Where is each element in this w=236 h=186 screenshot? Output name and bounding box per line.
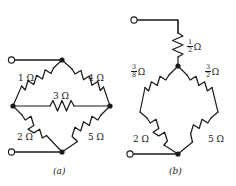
resistor-b-three-eighths [145, 75, 169, 91]
node-a-top [59, 57, 64, 62]
terminal-a-top [8, 57, 14, 63]
wire-a-r2-lower [47, 136, 63, 153]
wire-a-r4-lower [104, 87, 111, 106]
ohm-symbol: Ω [138, 67, 145, 77]
terminal-a-bottom [8, 149, 14, 155]
wire-a-r5-lower [62, 142, 78, 153]
label-a-5ohm: 5 Ω [88, 133, 104, 142]
label-a-1ohm: 1 Ω [18, 74, 34, 83]
terminal-b-top [131, 17, 137, 23]
wire-b-r5-lower [178, 142, 193, 154]
figure-container: 1 Ω 4 Ω 3 Ω 2 Ω 5 Ω (a) 1 2 Ω 3 8 Ω 3 2 … [0, 0, 236, 186]
fraction-denominator: 2 [187, 46, 193, 54]
label-b-5ohm: 5 Ω [208, 135, 224, 144]
fraction-numerator: 1 [187, 39, 193, 46]
label-a-3ohm: 3 Ω [53, 92, 69, 101]
fraction-three-eighths: 3 8 [131, 64, 137, 79]
label-a-4ohm: 4 Ω [88, 74, 104, 83]
resistor-b-2ohm [147, 118, 167, 145]
wire-b-r5-upper [211, 112, 218, 118]
resistor-a-3ohm [50, 101, 74, 112]
wire-b-r32-lower [212, 88, 218, 113]
caption-a: (a) [53, 166, 65, 176]
node-a-left [10, 103, 15, 108]
fraction-three-halves: 3 2 [205, 64, 211, 79]
node-a-right [107, 103, 112, 108]
fraction-denominator: 2 [205, 71, 211, 79]
wire-b-top-lead [138, 20, 179, 33]
node-b-center [175, 63, 180, 68]
wire-b-r2-upper [140, 112, 147, 118]
wire-a-r1-lower [13, 86, 22, 106]
label-b-2ohm: 2 Ω [133, 135, 149, 144]
ohm-symbol: Ω [194, 42, 201, 52]
circuit-diagram-svg [0, 0, 236, 186]
caption-b: (b) [169, 166, 182, 176]
fraction-numerator: 3 [205, 64, 211, 71]
ohm-symbol: Ω [212, 67, 219, 77]
terminal-b-bottom [127, 151, 133, 157]
node-b-bottom [175, 151, 180, 156]
wire-b-r38-lower [140, 88, 145, 113]
label-b-three-halves: 3 2 Ω [205, 64, 219, 79]
fraction-denominator: 8 [131, 71, 137, 79]
node-a-bottom [59, 149, 64, 154]
label-a-2ohm: 2 Ω [17, 133, 33, 142]
resistor-b-half [173, 33, 184, 57]
fraction-one-half: 1 2 [187, 39, 193, 54]
fraction-numerator: 3 [131, 64, 137, 71]
label-b-half: 1 2 Ω [187, 39, 201, 54]
label-b-three-eighths: 3 8 Ω [131, 64, 145, 79]
